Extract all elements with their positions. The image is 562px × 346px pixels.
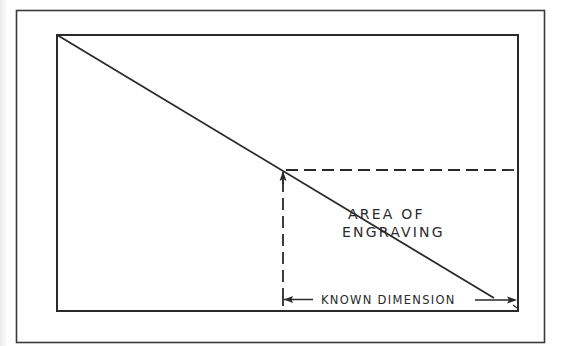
label-engraving: ENGRAVING (342, 224, 445, 240)
label-area-of: AREA OF (348, 206, 425, 222)
diagonal-guide-line (58, 36, 494, 299)
dimension-right-tick (513, 305, 517, 308)
label-known-dimension: KNOWN DIMENSION (321, 293, 456, 307)
outer-frame (17, 11, 545, 343)
engraving-diagram: AREA OF ENGRAVING KNOWN DIMENSION (0, 0, 562, 346)
